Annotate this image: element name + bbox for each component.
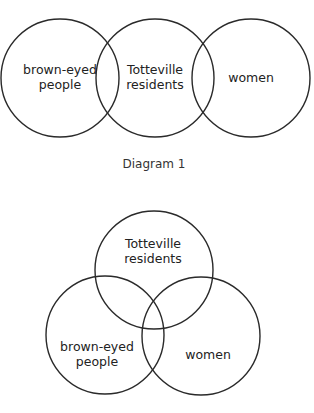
label-totteville-line1: Totteville [126,62,183,77]
label-totteville-line2: residents [124,251,182,266]
diagram-1-caption: Diagram 1 [123,157,186,171]
diagram-2: Totteville residents brown-eyed people w… [46,211,260,395]
label-brown-eyed-line1: brown-eyed [60,339,134,354]
label-totteville-line2: residents [126,77,184,92]
label-brown-eyed-line2: people [39,77,82,92]
circle-brown-eyed-people [46,276,164,394]
label-women: women [228,70,274,85]
label-brown-eyed-line1: brown-eyed [23,62,97,77]
diagram-1: brown-eyed people Totteville residents w… [1,19,310,171]
label-women: women [185,347,231,362]
circle-totteville-residents [95,211,213,329]
label-brown-eyed-line2: people [76,354,119,369]
circle-women [142,277,260,395]
venn-diagrams: brown-eyed people Totteville residents w… [0,0,314,413]
label-totteville-line1: Totteville [124,236,181,251]
